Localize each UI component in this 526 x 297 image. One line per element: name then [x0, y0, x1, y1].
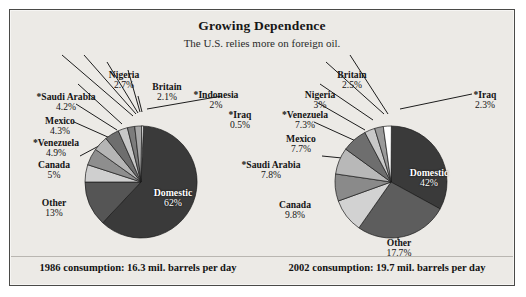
- label-iraq-1986: *Iraq 0.5%: [218, 110, 262, 130]
- label-venezuela-1986: *Venezuela 4.9%: [18, 138, 94, 158]
- label-canada-1986: Canada 5%: [26, 160, 82, 180]
- caption-2002: 2002 consumption: 19.7 mil. barrels per …: [266, 262, 508, 273]
- label-iraq-2002: *Iraq 2.3%: [462, 90, 508, 110]
- label-nigeria-2002: Nigeria 3%: [292, 90, 348, 110]
- footer-divider: [11, 256, 513, 257]
- label-mexico-1986: Mexico 4.3%: [32, 116, 88, 136]
- chart-figure: Growing Dependence The U.S. relies more …: [9, 9, 515, 286]
- caption-1986: 1986 consumption: 16.3 mil. barrels per …: [18, 262, 258, 273]
- pie-svg-1986: [83, 124, 199, 240]
- label-domestic-1986: Domestic 62%: [136, 188, 210, 209]
- label-saudi-arabia-2002: *Saudi Arabia 7.8%: [228, 160, 314, 180]
- label-other-1986: Other 13%: [26, 198, 82, 218]
- label-venezuela-2002: *Venezuela 7.3%: [266, 110, 344, 130]
- label-mexico-2002: Mexico 7.7%: [272, 134, 330, 154]
- label-canada-2002: Canada 9.8%: [266, 200, 324, 220]
- label-indonesia-1986: *Indonesia 2%: [180, 90, 252, 110]
- label-domestic-2002: Domestic 42%: [392, 168, 466, 189]
- chart-title: Growing Dependence: [10, 18, 514, 34]
- label-saudi-arabia-1986: *Saudi Arabia 4.2%: [24, 92, 108, 112]
- label-britain-2002: Britain 2.5%: [326, 70, 378, 90]
- chart-subtitle: The U.S. relies more on foreign oil.: [10, 37, 514, 49]
- pie-chart-1986: [83, 124, 199, 240]
